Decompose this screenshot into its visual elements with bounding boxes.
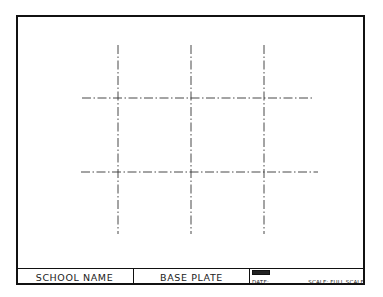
drawn-by-label-box [252, 270, 270, 275]
title-block: SCHOOL NAME BASE PLATE DATE: SCALE: FULL… [16, 268, 365, 285]
part-name-text: BASE PLATE [160, 272, 223, 283]
title-block-part-name: BASE PLATE [134, 269, 250, 285]
school-name-text: SCHOOL NAME [36, 272, 113, 283]
centerlines-group [81, 45, 318, 234]
drawing-canvas [0, 0, 383, 297]
date-label: DATE: [252, 279, 269, 285]
scale-label: SCALE: FULL SCALE [308, 279, 364, 285]
title-block-school-name: SCHOOL NAME [16, 269, 134, 285]
title-block-info: DATE: SCALE: FULL SCALE [250, 269, 365, 285]
